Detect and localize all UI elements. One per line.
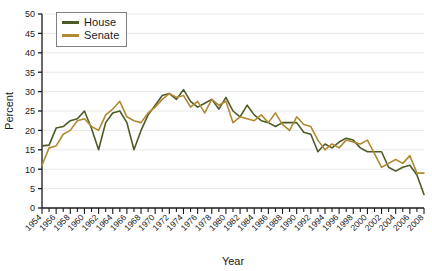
legend-item-senate: Senate [62, 29, 119, 42]
svg-text:35: 35 [25, 68, 35, 78]
svg-text:30: 30 [25, 87, 35, 97]
x-axis: 1954195619581960196219641966196819701972… [23, 208, 426, 233]
svg-text:20: 20 [25, 126, 35, 136]
legend-label-senate: Senate [84, 30, 119, 42]
legend-swatch-house [62, 21, 79, 24]
svg-text:45: 45 [25, 29, 35, 39]
legend-label-house: House [84, 17, 116, 29]
svg-text:Percent: Percent [3, 92, 15, 130]
svg-text:0: 0 [30, 203, 35, 213]
chart-legend: House Senate [56, 12, 127, 47]
svg-text:40: 40 [25, 48, 35, 58]
svg-text:5: 5 [30, 184, 35, 194]
chart-figure: 05101520253035404550 1954195619581960196… [0, 0, 432, 271]
svg-text:Year: Year [222, 255, 245, 267]
svg-text:50: 50 [25, 9, 35, 19]
svg-text:15: 15 [25, 145, 35, 155]
svg-text:25: 25 [25, 106, 35, 116]
svg-text:2008: 2008 [405, 212, 426, 233]
legend-swatch-senate [62, 34, 79, 37]
series-lines [42, 90, 424, 195]
y-axis: 05101520253035404550 [25, 9, 42, 213]
legend-item-house: House [62, 16, 119, 29]
svg-text:10: 10 [25, 165, 35, 175]
